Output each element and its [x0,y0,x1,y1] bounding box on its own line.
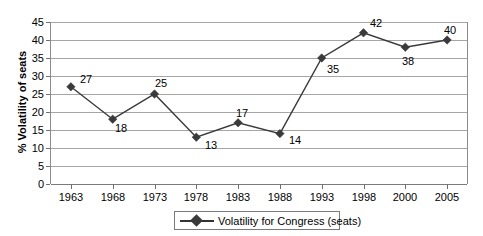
y-tick-label: 5 [18,161,44,172]
series-line-volatility-for-congress-seats [50,22,468,184]
x-tick-mark [364,184,365,189]
data-point-label: 35 [327,64,339,75]
data-point-label: 40 [444,25,456,36]
data-point-marker [276,129,284,137]
data-point-label: 17 [236,108,248,119]
x-tick-mark [238,184,239,189]
x-tick-mark [322,184,323,189]
data-point-label: 27 [80,74,92,85]
x-tick-label: 2005 [422,191,472,203]
y-tick-label: 20 [18,107,44,118]
x-axis-ticks: 1963196819731978198319881993199820002005 [50,184,468,210]
data-point-label: 38 [402,56,414,67]
data-point-label: 18 [115,123,127,134]
series-line [71,33,447,137]
x-tick-mark [405,184,406,189]
data-point-label: 42 [370,18,382,29]
data-point-marker [443,36,451,44]
legend-item-label: Volatility for Congress (seats) [218,215,361,227]
x-tick-mark [113,184,114,189]
data-point-marker [234,119,242,127]
x-tick-mark [155,184,156,189]
data-point-label: 13 [205,140,217,151]
y-tick-label: 35 [18,53,44,64]
y-tick-label: 30 [18,71,44,82]
y-tick-label: 0 [18,179,44,190]
data-point-marker [359,29,367,37]
y-tick-label: 10 [18,143,44,154]
x-tick-mark [447,184,448,189]
legend: Volatility for Congress (seats) [174,211,340,230]
y-axis-ticks: 051015202530354045 [0,22,50,184]
x-tick-mark [280,184,281,189]
y-tick-label: 40 [18,35,44,46]
data-point-marker [318,54,326,62]
y-tick-label: 45 [18,17,44,28]
data-point-label: 25 [155,78,167,89]
x-tick-mark [196,184,197,189]
diamond-marker-icon [180,215,214,226]
data-point-marker [401,43,409,51]
x-tick-mark [71,184,72,189]
data-point-label: 14 [289,135,301,146]
line-chart: % Volatility of seats 051015202530354045… [0,0,483,236]
y-tick-label: 25 [18,89,44,100]
y-tick-label: 15 [18,125,44,136]
